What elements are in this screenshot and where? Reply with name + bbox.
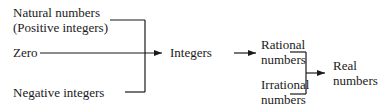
number-classification-diagram: Natural numbers (Positive integers) Zero… <box>0 0 387 112</box>
negative-integers-label: Negative integers <box>13 85 104 100</box>
rational-line1: Rational <box>261 37 306 52</box>
integers-label: Integers <box>170 45 212 60</box>
natural-numbers-line2: (Positive integers) <box>13 20 108 35</box>
real-line2: numbers <box>333 73 378 88</box>
real-line1: Real <box>333 58 378 73</box>
rational-numbers-label: Rational numbers <box>261 37 306 67</box>
irrational-line1: Irrational <box>261 77 309 92</box>
irrational-numbers-label: Irrational numbers <box>261 77 309 107</box>
natural-numbers-label: Natural numbers (Positive integers) <box>13 5 108 35</box>
irrational-line2: numbers <box>261 92 309 107</box>
rational-line2: numbers <box>261 52 306 67</box>
natural-numbers-line1: Natural numbers <box>13 5 108 20</box>
real-numbers-label: Real numbers <box>333 58 378 88</box>
zero-label: Zero <box>13 45 38 60</box>
